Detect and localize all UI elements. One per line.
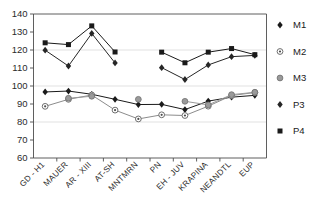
series-M1 xyxy=(42,88,257,113)
legend-item-M1[interactable]: M1 xyxy=(277,19,306,30)
data-point xyxy=(135,116,141,122)
data-point xyxy=(42,103,48,109)
data-point xyxy=(66,95,72,101)
y-tick-label: 120 xyxy=(12,44,28,55)
series-M2 xyxy=(42,90,258,122)
data-point xyxy=(206,62,211,69)
data-point xyxy=(182,60,187,65)
data-point xyxy=(135,96,141,102)
x-axis-category-labels: GD - H1MAUERAR - XIIIAT-SHMNTMRNPNEH - J… xyxy=(18,160,257,195)
data-point xyxy=(229,92,235,98)
data-point xyxy=(66,88,71,95)
y-tick-label: 70 xyxy=(17,134,28,145)
line-chart: 60708090100110120130140 GD - H1MAUERAR -… xyxy=(0,0,324,213)
data-point xyxy=(42,89,47,96)
chart-axes xyxy=(30,14,267,162)
x-category-label: AR - XIII xyxy=(64,160,94,190)
data-point xyxy=(252,52,257,57)
data-point xyxy=(159,112,165,118)
legend-label: P3 xyxy=(293,99,305,110)
data-point xyxy=(89,93,95,99)
data-point xyxy=(112,96,117,103)
legend-label: M1 xyxy=(293,19,306,30)
data-point xyxy=(42,47,47,54)
chart-legend: M1M2M3P3P4 xyxy=(277,19,306,136)
chart-container: 60708090100110120130140 GD - H1MAUERAR -… xyxy=(0,0,324,213)
data-point xyxy=(159,101,164,108)
legend-label: P4 xyxy=(293,125,305,136)
data-point xyxy=(66,42,71,47)
data-point xyxy=(182,113,188,119)
data-point xyxy=(112,107,118,113)
y-tick-label: 130 xyxy=(12,26,28,37)
grid-lines xyxy=(34,50,267,122)
data-point xyxy=(89,23,94,28)
legend-marker-filled-diamond-icon xyxy=(277,101,282,108)
data-point xyxy=(182,76,187,83)
legend-item-M3[interactable]: M3 xyxy=(277,72,306,83)
data-point xyxy=(206,50,211,55)
y-axis-tick-labels: 60708090100110120130140 xyxy=(12,8,28,163)
legend-marker-filled-diamond-icon xyxy=(277,22,282,29)
data-point xyxy=(229,53,234,60)
y-tick-label: 60 xyxy=(17,152,28,163)
legend-item-P4[interactable]: P4 xyxy=(278,125,305,136)
legend-marker-ring-circle-icon xyxy=(277,49,283,55)
legend-marker-gray-circle-icon xyxy=(277,75,283,81)
legend-label: M3 xyxy=(293,72,306,83)
data-point xyxy=(205,102,211,108)
data-point xyxy=(113,49,118,54)
data-series xyxy=(42,23,258,121)
data-point xyxy=(43,40,48,45)
y-tick-label: 80 xyxy=(17,116,28,127)
y-tick-label: 90 xyxy=(17,98,28,109)
legend-label: M2 xyxy=(293,46,306,57)
data-point xyxy=(182,98,188,104)
y-tick-label: 140 xyxy=(12,8,28,19)
x-category-label: GD - H1 xyxy=(18,160,47,189)
data-point xyxy=(159,64,164,71)
legend-item-P3[interactable]: P3 xyxy=(277,99,304,110)
series-P3 xyxy=(42,30,257,83)
data-point xyxy=(159,50,164,55)
x-category-label: EUP xyxy=(238,160,257,179)
data-point xyxy=(252,89,258,95)
x-category-label: PN xyxy=(148,160,163,175)
y-tick-label: 100 xyxy=(12,80,28,91)
y-tick-label: 110 xyxy=(12,62,27,73)
legend-marker-filled-square-icon xyxy=(278,129,283,134)
data-point xyxy=(229,46,234,51)
data-point xyxy=(182,106,187,113)
legend-item-M2[interactable]: M2 xyxy=(277,46,306,57)
